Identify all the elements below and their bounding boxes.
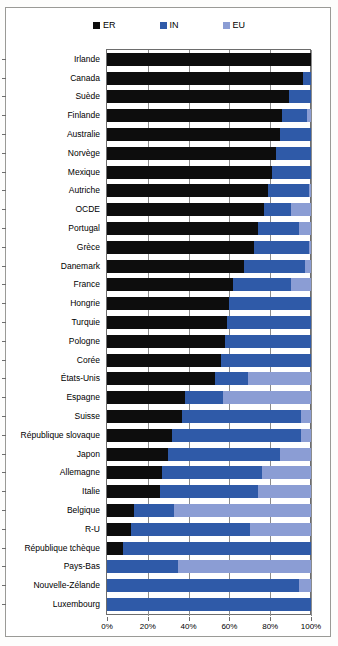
bar-segment-er	[107, 166, 272, 179]
axis-tick	[2, 529, 6, 530]
bar-segment-eu	[262, 466, 311, 479]
bar-row	[107, 182, 311, 201]
bar-segment-in	[123, 542, 311, 555]
stacked-bar	[107, 241, 311, 254]
bar-segment-in	[185, 391, 224, 404]
bar-segment-in	[182, 410, 300, 423]
bar-row	[107, 332, 311, 351]
axis-tick	[2, 510, 6, 511]
bar-segment-er	[107, 448, 168, 461]
category-label: Belgique	[6, 501, 104, 520]
bar-segment-eu	[301, 410, 311, 423]
axis-tick	[2, 454, 6, 455]
bar-segment-er	[107, 147, 276, 160]
category-label: Irlande	[6, 50, 104, 69]
bar-segment-eu	[174, 504, 311, 517]
stacked-bar	[107, 203, 311, 216]
bar-segment-in	[268, 184, 309, 197]
value-axis-tick	[148, 617, 149, 621]
plot-area	[106, 49, 316, 619]
legend-label: IN	[170, 21, 179, 30]
value-axis-label: 40%	[181, 622, 197, 631]
axis-tick	[2, 397, 6, 398]
bar-row	[107, 539, 311, 558]
stacked-bar	[107, 579, 311, 592]
bar-segment-er	[107, 410, 182, 423]
bar-segment-er	[107, 372, 215, 385]
category-label: Norvège	[6, 144, 104, 163]
stacked-bar	[107, 222, 311, 235]
bar-segment-in	[107, 560, 178, 573]
stacked-bar	[107, 297, 311, 310]
bar-segment-er	[107, 72, 303, 85]
bar-row	[107, 219, 311, 238]
bar-row	[107, 595, 311, 614]
stacked-bar	[107, 166, 311, 179]
axis-tick	[2, 416, 6, 417]
bar-segment-in	[229, 297, 311, 310]
bar-segment-eu	[250, 523, 311, 536]
category-label: Espagne	[6, 388, 104, 407]
bar-segment-eu	[291, 203, 311, 216]
legend-item-er: ER	[93, 21, 116, 30]
bar-row	[107, 351, 311, 370]
stacked-bar	[107, 560, 311, 573]
bar-segment-in	[227, 316, 311, 329]
bar-segment-er	[107, 260, 244, 273]
axis-tick	[2, 378, 6, 379]
bar-row	[107, 482, 311, 501]
category-label: Pays-Bas	[6, 558, 104, 577]
bar-segment-eu	[258, 485, 311, 498]
bar-row	[107, 144, 311, 163]
axis-tick	[2, 585, 6, 586]
category-label: Suisse	[6, 407, 104, 426]
bar-segment-in	[225, 335, 311, 348]
bar-segment-eu	[299, 579, 311, 592]
stacked-bar	[107, 354, 311, 367]
legend-item-in: IN	[160, 21, 179, 30]
axis-tick	[2, 266, 6, 267]
bar-segment-er	[107, 203, 264, 216]
bar-segment-eu	[299, 222, 311, 235]
category-label: Grèce	[6, 238, 104, 257]
bar-segment-eu	[309, 184, 311, 197]
stacked-bar	[107, 598, 311, 611]
legend-label: ER	[103, 21, 116, 30]
category-axis-labels: IrlandeCanadaSuèdeFinlandeAustralieNorvè…	[6, 50, 104, 614]
axis-tick	[2, 435, 6, 436]
axis-tick	[2, 604, 6, 605]
bar-segment-in	[276, 147, 311, 160]
legend-swatch-eu	[223, 22, 230, 29]
stacked-bar	[107, 448, 311, 461]
bar-segment-in	[168, 448, 280, 461]
bar-segment-eu	[223, 391, 311, 404]
bar-row	[107, 50, 311, 69]
category-label: Canada	[6, 69, 104, 88]
value-axis-label: 0%	[101, 622, 113, 631]
bar-row	[107, 501, 311, 520]
bar-segment-in	[107, 579, 299, 592]
bar-segment-er	[107, 53, 311, 66]
bar-segment-in	[131, 523, 249, 536]
bar-segment-in	[254, 241, 309, 254]
axis-tick	[2, 228, 6, 229]
stacked-bar	[107, 466, 311, 479]
stacked-bar	[107, 278, 311, 291]
bar-row	[107, 200, 311, 219]
stacked-bar	[107, 429, 311, 442]
axis-tick	[2, 303, 6, 304]
bar-segment-er	[107, 128, 280, 141]
legend-item-eu: EU	[223, 21, 246, 30]
category-label: République slovaque	[6, 426, 104, 445]
legend-swatch-er	[93, 22, 100, 29]
category-label: Corée	[6, 351, 104, 370]
axis-tick	[2, 548, 6, 549]
value-axis-tick	[229, 617, 230, 621]
value-axis-label: 100%	[301, 622, 321, 631]
category-label: Hongrie	[6, 294, 104, 313]
chart-legend: ERINEU	[6, 17, 332, 33]
bar-segment-eu	[309, 241, 311, 254]
axis-tick	[2, 322, 6, 323]
axis-tick	[2, 284, 6, 285]
stacked-bar	[107, 128, 311, 141]
